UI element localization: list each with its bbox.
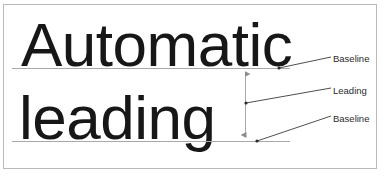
sample-word-line1: Automatic bbox=[21, 14, 292, 76]
callout-label-baseline-bottom: Baseline bbox=[333, 113, 369, 124]
sample-word-line2: leading bbox=[19, 87, 215, 149]
callout-label-leading: Leading bbox=[333, 85, 367, 96]
callout-label-baseline-top: Baseline bbox=[333, 53, 369, 64]
leading-diagram: Automatic leading Baseline Leading B bbox=[0, 0, 387, 179]
